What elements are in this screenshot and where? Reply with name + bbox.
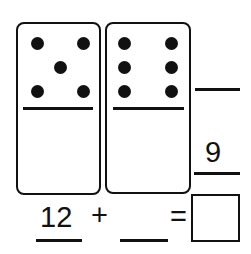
pip bbox=[77, 85, 90, 98]
first-addend: 12 bbox=[40, 203, 72, 232]
vertical-addend: 9 bbox=[205, 138, 221, 167]
domino-divider bbox=[113, 107, 184, 110]
answer-box[interactable] bbox=[191, 194, 240, 242]
pip bbox=[54, 61, 67, 74]
pip bbox=[31, 85, 44, 98]
pip bbox=[165, 37, 178, 50]
pip bbox=[165, 61, 178, 74]
pip bbox=[31, 37, 44, 50]
plus-sign: + bbox=[91, 201, 108, 230]
pip bbox=[118, 61, 131, 74]
vertical-addend-underline bbox=[194, 172, 240, 175]
pip bbox=[118, 37, 131, 50]
first-addend-blank bbox=[36, 239, 82, 242]
domino-right bbox=[105, 22, 191, 194]
pip bbox=[77, 37, 90, 50]
domino-divider bbox=[23, 107, 93, 110]
pip bbox=[165, 85, 178, 98]
second-addend-blank[interactable] bbox=[120, 239, 168, 242]
domino-left bbox=[16, 22, 101, 195]
top-answer-blank[interactable] bbox=[195, 88, 240, 91]
pip bbox=[118, 85, 131, 98]
equals-sign: = bbox=[170, 202, 187, 231]
